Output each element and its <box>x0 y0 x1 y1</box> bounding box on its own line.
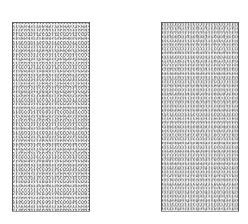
left-stipple-block <box>12 22 90 212</box>
center-opening <box>90 22 161 212</box>
right-stipple-block <box>161 22 239 212</box>
figure-canvas <box>0 0 248 224</box>
